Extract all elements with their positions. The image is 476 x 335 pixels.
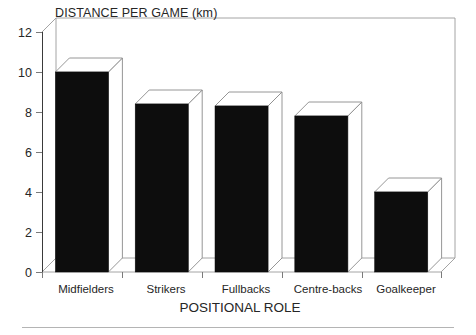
bar-side-face xyxy=(348,102,362,272)
x-tick-label-midfielders: Midfielders xyxy=(58,283,114,295)
y-axis xyxy=(36,32,42,272)
bar-front-face xyxy=(215,106,268,272)
frame-depth-bottomright xyxy=(441,258,455,272)
chart-title: DISTANCE PER GAME (km) xyxy=(55,6,217,20)
bar-midfielders xyxy=(55,58,122,272)
y-tick-label-6: 6 xyxy=(25,146,32,160)
x-tick-label-fullbacks: Fullbacks xyxy=(222,283,271,295)
bar-front-face xyxy=(55,72,108,272)
bar-side-face xyxy=(108,58,122,272)
x-axis-title: POSITIONAL ROLE xyxy=(179,300,300,315)
y-tick-label-12: 12 xyxy=(18,26,32,40)
y-tick-label-4: 4 xyxy=(25,186,32,200)
y-tick-label-0: 0 xyxy=(25,266,32,280)
bar-side-face xyxy=(428,178,442,272)
bars-group xyxy=(55,58,441,272)
y-tick-label-10: 10 xyxy=(18,66,32,80)
bar-strikers xyxy=(135,90,202,272)
bar-centre-backs xyxy=(295,102,362,272)
x-axis-ticks xyxy=(42,272,441,278)
bar-side-face xyxy=(268,92,282,272)
bar-front-face xyxy=(295,116,348,272)
bar-side-face xyxy=(188,90,202,272)
x-tick-label-centre-backs: Centre-backs xyxy=(294,283,363,295)
bar-chart-figure: 12 10 8 6 4 2 0 DISTANCE PER GAME (km) M… xyxy=(0,0,476,335)
bar-front-face xyxy=(375,192,428,272)
chart-canvas: 12 10 8 6 4 2 0 DISTANCE PER GAME (km) M… xyxy=(0,0,476,335)
x-tick-label-goalkeeper: Goalkeeper xyxy=(376,283,436,295)
bar-fullbacks xyxy=(215,92,282,272)
bar-goalkeeper xyxy=(375,178,442,272)
y-tick-labels: 12 10 8 6 4 2 0 xyxy=(18,26,32,280)
y-tick-label-2: 2 xyxy=(25,226,32,240)
bottom-horizontal-rule xyxy=(22,327,454,328)
bar-front-face xyxy=(135,104,188,272)
x-tick-labels: Midfielders Strikers Fullbacks Centre-ba… xyxy=(58,283,436,295)
frame-depth-bottomleft xyxy=(42,258,56,272)
y-tick-label-8: 8 xyxy=(25,106,32,120)
frame-depth-topleft xyxy=(42,18,56,32)
x-tick-label-strikers: Strikers xyxy=(147,283,186,295)
